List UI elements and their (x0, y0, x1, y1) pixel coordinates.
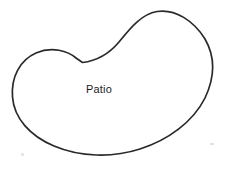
patio-diagram (0, 0, 227, 169)
scan-speck-right-icon (210, 143, 214, 145)
scan-speck-bottom-left-icon (21, 153, 24, 156)
diagram-canvas: Patio (0, 0, 227, 169)
patio-region-outline[interactable] (12, 11, 212, 155)
patio-label: Patio (86, 84, 112, 95)
